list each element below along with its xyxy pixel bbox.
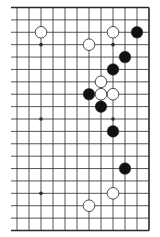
- black-stone: [83, 88, 95, 100]
- star-point: [39, 43, 43, 47]
- black-stone: [107, 126, 119, 138]
- black-stone: [131, 26, 143, 38]
- star-point: [39, 192, 43, 196]
- white-stone: [83, 200, 95, 212]
- white-stone: [83, 39, 95, 51]
- star-point: [39, 117, 43, 121]
- white-stone: [107, 26, 119, 38]
- black-stone: [119, 51, 131, 63]
- black-stone: [119, 163, 131, 175]
- board-grid: [11, 8, 149, 231]
- go-board: [0, 0, 160, 237]
- star-point: [111, 43, 115, 47]
- white-stone: [95, 88, 107, 100]
- white-stone: [107, 188, 119, 200]
- black-stone: [107, 64, 119, 76]
- star-point: [111, 117, 115, 121]
- white-stone: [35, 26, 47, 38]
- black-stone: [95, 101, 107, 113]
- white-stone: [95, 76, 107, 88]
- white-stone: [107, 88, 119, 100]
